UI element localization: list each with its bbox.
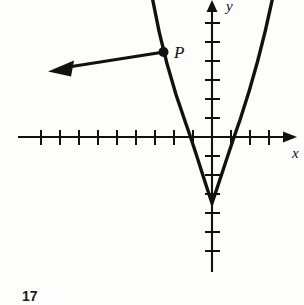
tangent-ray-line [62, 52, 164, 68]
figure-container: P y x 17 [0, 0, 304, 305]
point-p-label: P [173, 43, 184, 62]
x-axis-group [18, 130, 297, 145]
tangent-ray-arrowhead-icon [48, 61, 74, 77]
tangent-ray-at-point-p [48, 52, 164, 77]
parabola-tangent-graph: P y x 17 [0, 0, 304, 305]
x-axis-arrowhead-icon [283, 132, 297, 143]
y-axis-label: y [224, 0, 233, 14]
point-p-marker [159, 47, 169, 57]
y-axis-arrowhead-icon [207, 0, 218, 12]
x-axis-label: x [291, 145, 299, 161]
figure-number-label: 17 [22, 288, 38, 304]
